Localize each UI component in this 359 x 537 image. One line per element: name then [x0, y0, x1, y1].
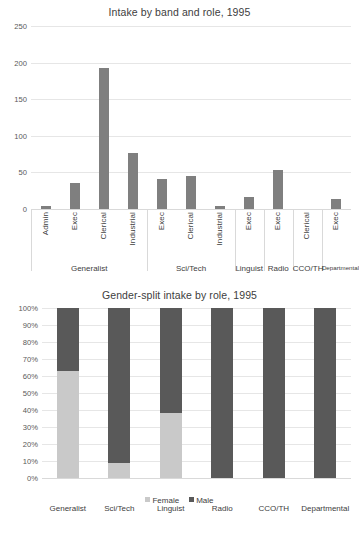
top-chart-bar [128, 153, 138, 209]
top-chart-bar [273, 170, 283, 209]
top-chart-y-axis: 050100150200250 [0, 26, 27, 209]
bottom-gridline [42, 444, 351, 445]
bottom-chart-segment-female [108, 463, 130, 478]
bottom-gridline [42, 393, 351, 394]
top-chart-bar [157, 179, 167, 209]
bottom-gridline [42, 427, 351, 428]
top-gridline [31, 209, 351, 210]
bottom-chart-stacked-bar [108, 308, 130, 478]
bottom-chart-segment-male [57, 308, 79, 371]
bottom-gridline [42, 359, 351, 360]
bottom-chart-title: Gender-split intake by role, 1995 [0, 286, 359, 301]
top-chart-plot-area: AdminExecClericalIndustrialExecClericalI… [31, 26, 351, 209]
top-chart-category-label: Exec [273, 212, 282, 230]
top-chart-category-label: Clerical [99, 212, 108, 239]
bottom-chart-stacked-bar [263, 308, 285, 478]
top-gridline [31, 172, 351, 173]
bottom-y-tick-label: 60% [23, 372, 38, 381]
top-chart-bar [41, 206, 51, 209]
bottom-gridline [42, 376, 351, 377]
top-chart-band-label: Sci/Tech [147, 264, 234, 273]
top-chart-bar [215, 206, 225, 209]
top-chart-band-separator [147, 209, 148, 271]
top-chart-band-separator [293, 209, 294, 271]
bottom-chart-segment-male [314, 308, 336, 478]
bottom-gridline [42, 478, 351, 479]
top-chart-title: Intake by band and role, 1995 [0, 0, 359, 18]
top-chart-bar [244, 197, 254, 209]
bottom-y-tick-label: 20% [23, 440, 38, 449]
top-chart-category-label: Exec [157, 212, 166, 230]
bottom-chart-stacked-bar [211, 308, 233, 478]
bottom-chart-plot-area: GeneralistSci/TechLinguistRadioCCO/THDep… [42, 308, 351, 478]
top-chart-category-label: Industrial [215, 212, 224, 245]
top-chart-bar [186, 176, 196, 209]
top-chart-category-label: Admin [41, 212, 50, 235]
legend-swatch-icon [145, 497, 150, 502]
bottom-y-tick-label: 100% [19, 304, 38, 313]
top-chart-category-label: Industrial [128, 212, 137, 245]
top-chart-bar [70, 183, 80, 209]
legend-swatch-icon [189, 497, 194, 502]
top-chart-band-label: Linguist [235, 264, 264, 273]
bottom-y-tick-label: 90% [23, 321, 38, 330]
legend-item-female[interactable]: Female [145, 496, 179, 505]
intake-by-band-and-role-chart: Intake by band and role, 1995 0501001502… [0, 0, 359, 286]
top-chart-category-label: Exec [70, 212, 79, 230]
top-chart-category-label: Exec [331, 212, 340, 230]
top-y-tick-label: 50 [19, 168, 27, 177]
bottom-chart-stacked-bar [160, 308, 182, 478]
bottom-gridline [42, 325, 351, 326]
bottom-y-tick-label: 40% [23, 406, 38, 415]
bottom-y-tick-label: 80% [23, 338, 38, 347]
bottom-chart-segment-female [57, 371, 79, 478]
top-chart-band-label: Departmental [322, 264, 351, 271]
bottom-chart-segment-female [160, 413, 182, 478]
bottom-y-tick-label: 70% [23, 355, 38, 364]
top-y-tick-label: 200 [14, 58, 27, 67]
bottom-chart-segment-male [160, 308, 182, 413]
top-chart-band-separator [264, 209, 265, 271]
bottom-y-tick-label: 10% [23, 457, 38, 466]
top-y-tick-label: 250 [14, 22, 27, 31]
bottom-y-tick-label: 30% [23, 423, 38, 432]
bottom-chart-segment-male [263, 308, 285, 478]
legend-label: Female [152, 496, 179, 505]
bottom-chart-stacked-bar [57, 308, 79, 478]
top-chart-band-label: CCO/TH [293, 264, 322, 273]
top-chart-bar [99, 68, 109, 209]
top-chart-category-label: Clerical [302, 212, 311, 239]
legend-item-male[interactable]: Male [189, 496, 213, 505]
top-y-tick-label: 0 [23, 205, 27, 214]
bottom-gridline [42, 410, 351, 411]
top-chart-bar [331, 199, 341, 209]
bottom-chart-segment-male [108, 308, 130, 463]
gender-split-intake-chart: Gender-split intake by role, 1995 0%10%2… [0, 286, 359, 537]
top-chart-band-label: Generalist [31, 264, 147, 273]
bottom-chart-stacked-bar [314, 308, 336, 478]
bottom-chart-y-axis: 0%10%20%30%40%50%60%70%80%90%100% [0, 308, 38, 478]
top-gridline [31, 63, 351, 64]
top-gridline [31, 26, 351, 27]
bottom-chart-segment-male [211, 308, 233, 478]
legend-label: Male [196, 496, 213, 505]
top-y-tick-label: 150 [14, 95, 27, 104]
bottom-gridline [42, 461, 351, 462]
top-gridline [31, 136, 351, 137]
top-chart-band-separator [322, 209, 323, 271]
top-chart-band-separator [235, 209, 236, 271]
bottom-gridline [42, 308, 351, 309]
top-chart-band-separator [31, 209, 32, 271]
top-chart-band-label: Radio [264, 264, 293, 273]
bottom-y-tick-label: 50% [23, 389, 38, 398]
bottom-y-tick-label: 0% [27, 474, 38, 483]
bottom-gridline [42, 342, 351, 343]
top-gridline [31, 99, 351, 100]
bottom-chart-legend: FemaleMale [0, 496, 359, 505]
top-chart-category-label: Exec [244, 212, 253, 230]
top-chart-category-label: Clerical [186, 212, 195, 239]
top-y-tick-label: 100 [14, 131, 27, 140]
